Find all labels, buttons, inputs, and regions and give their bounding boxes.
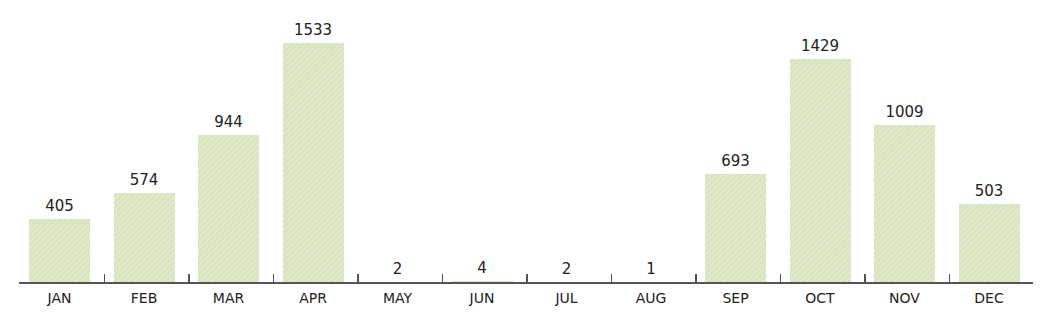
value-label-aug: 1	[609, 260, 694, 278]
bar-apr	[283, 43, 344, 282]
x-tick-label-jul: JUL	[524, 290, 609, 306]
value-label-mar: 944	[186, 113, 271, 131]
bar-jun	[452, 281, 513, 282]
value-label-nov: 1009	[862, 103, 947, 121]
x-tick-label-sep: SEP	[693, 290, 778, 306]
bar-sep	[705, 174, 766, 282]
x-tick-label-oct: OCT	[778, 290, 863, 306]
x-axis-tick	[526, 274, 528, 283]
value-label-jun: 4	[440, 259, 525, 277]
x-tick-label-jan: JAN	[17, 290, 102, 306]
x-tick-label-dec: DEC	[947, 290, 1032, 306]
x-tick-label-aug: AUG	[609, 290, 694, 306]
x-tick-label-jun: JUN	[440, 290, 525, 306]
value-label-feb: 574	[102, 171, 187, 189]
x-axis-tick	[695, 274, 697, 283]
value-label-oct: 1429	[778, 37, 863, 55]
value-label-dec: 503	[947, 182, 1032, 200]
x-axis-tick	[104, 274, 106, 283]
x-axis-tick	[442, 274, 444, 283]
value-label-sep: 693	[693, 152, 778, 170]
x-axis-tick	[864, 274, 866, 283]
x-axis-tick	[949, 274, 951, 283]
x-tick-label-feb: FEB	[102, 290, 187, 306]
x-tick-label-apr: APR	[271, 290, 356, 306]
x-tick-label-may: MAY	[355, 290, 440, 306]
bar-mar	[198, 135, 259, 282]
x-axis-tick	[357, 274, 359, 283]
value-label-jan: 405	[17, 197, 102, 215]
x-axis-tick	[780, 274, 782, 283]
x-axis-tick	[273, 274, 275, 283]
value-label-jul: 2	[524, 260, 609, 278]
bar-feb	[114, 193, 175, 282]
value-label-may: 2	[355, 260, 440, 278]
monthly-bar-chart: 405JAN574FEB944MAR1533APR2MAY4JUN2JUL1AU…	[0, 0, 1053, 325]
x-axis-tick	[611, 274, 613, 283]
x-tick-label-mar: MAR	[186, 290, 271, 306]
bar-dec	[959, 204, 1020, 282]
x-axis-tick	[188, 274, 190, 283]
bar-oct	[790, 59, 851, 282]
bar-jan	[29, 219, 90, 282]
x-tick-label-nov: NOV	[862, 290, 947, 306]
bar-nov	[874, 125, 935, 282]
value-label-apr: 1533	[271, 21, 356, 39]
